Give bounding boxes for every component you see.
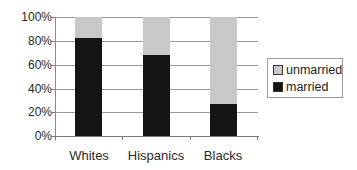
legend-label: unmarried	[286, 63, 342, 77]
y-tick-label: 80%	[28, 35, 52, 47]
bar-segment-married	[75, 38, 102, 136]
legend: unmarried married	[267, 58, 343, 98]
y-tick-label: 60%	[28, 59, 52, 71]
x-tick-label: Hispanics	[121, 148, 191, 163]
legend-item-unmarried: unmarried	[273, 63, 342, 77]
x-tick-mark	[190, 136, 191, 140]
bar-blacks	[210, 17, 237, 136]
y-tick-label: 40%	[28, 83, 52, 95]
y-tick-mark	[51, 41, 55, 42]
bar-segment-unmarried	[75, 17, 102, 38]
y-tick-mark	[51, 89, 55, 90]
legend-label: married	[286, 80, 328, 94]
bar-segment-married	[210, 104, 237, 136]
x-tick-mark	[257, 136, 258, 140]
y-tick-mark	[51, 17, 55, 18]
bar-segment-unmarried	[210, 17, 237, 104]
legend-item-married: married	[273, 80, 328, 94]
legend-swatch-icon	[273, 82, 283, 92]
x-axis	[51, 136, 259, 137]
y-tick-mark	[51, 65, 55, 66]
y-axis	[55, 17, 56, 137]
x-tick-label: Blacks	[188, 148, 258, 163]
x-tick-label: Whites	[54, 148, 124, 163]
y-tick-label: 0%	[35, 130, 52, 142]
bar-segment-married	[143, 55, 170, 136]
y-tick-label: 20%	[28, 106, 52, 118]
y-tick-label: 100%	[21, 11, 52, 23]
legend-swatch-icon	[273, 65, 283, 75]
x-tick-mark	[55, 136, 56, 140]
y-tick-mark	[51, 112, 55, 113]
bar-segment-unmarried	[143, 17, 170, 55]
x-tick-mark	[122, 136, 123, 140]
bar-hispanics	[143, 17, 170, 136]
bar-whites	[75, 17, 102, 136]
